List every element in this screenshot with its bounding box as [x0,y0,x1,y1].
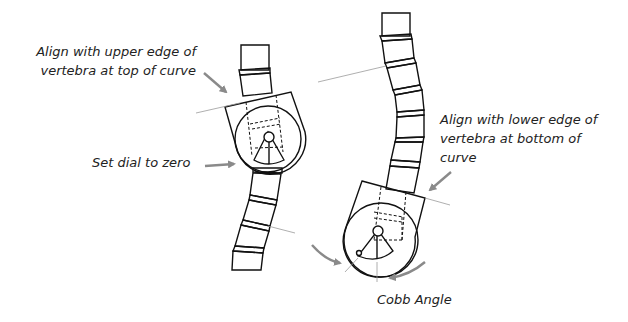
label-line: Align with lower edge of [440,110,597,129]
right-arrows [312,172,451,278]
right-guide-lines [318,66,450,282]
label-line: Align with upper edge of [20,42,196,61]
vertebra [235,225,269,248]
arrow-lower-edge [430,172,451,190]
label-line: vertebra at bottom of [440,129,597,148]
left-spine [232,45,282,270]
intervertebral-disc [385,58,416,68]
instrument-housing [343,181,425,277]
vertebra [396,115,424,138]
label-align-upper-edge: Align with upper edge of vertebra at top… [20,42,196,80]
right-spine [380,13,424,193]
arrow-set-dial [205,164,234,166]
intervertebral-disc [249,195,277,205]
vertebra [232,251,263,270]
vertebra [241,45,269,70]
vertebra [240,73,272,96]
vertebra [395,90,424,112]
arrow-cobb-left [312,245,340,263]
label-line: vertebra at top of curve [20,61,196,80]
label-set-dial-to-zero: Set dial to zero [92,153,190,172]
label-cobb-angle: Cobb Angle [377,290,452,309]
intervertebral-disc [393,85,422,95]
intervertebral-disc [395,137,424,142]
vertebra [391,142,423,162]
left-arrows [204,73,234,166]
left-inclinometer [225,92,306,174]
vertebra [382,13,410,36]
vertebra [243,200,276,226]
arrow-upper-edge [204,73,226,92]
label-align-lower-edge: Align with lower edge of vertebra at bot… [440,110,597,167]
label-line: curve [440,148,597,167]
right-inclinometer [343,181,425,277]
